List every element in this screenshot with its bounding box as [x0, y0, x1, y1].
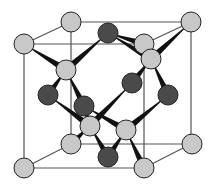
light-atom [182, 134, 202, 154]
dark-atom [98, 23, 118, 43]
dark-atom [158, 85, 178, 105]
dark-atom [38, 85, 58, 105]
dark-atom [98, 147, 118, 167]
light-atom [56, 60, 76, 80]
crystal-diagram [0, 0, 212, 190]
dark-atom [74, 96, 94, 116]
light-atom [181, 12, 201, 32]
light-atom [141, 49, 161, 69]
light-atom [14, 34, 34, 54]
light-atom [61, 134, 81, 154]
crystal-structure-svg [0, 0, 212, 190]
light-atom [116, 120, 136, 140]
light-atom [14, 158, 34, 178]
light-atom [80, 116, 100, 136]
light-atom [61, 12, 81, 32]
light-atom [134, 158, 154, 178]
dark-atom [122, 73, 142, 93]
